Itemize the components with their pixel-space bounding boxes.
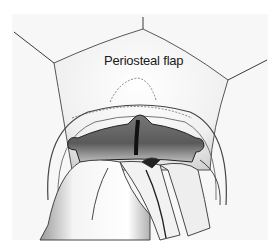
illustration-drawing [0, 0, 276, 248]
periosteal-flap-label: Periosteal flap [104, 53, 183, 68]
surgical-illustration: Periosteal flap [0, 0, 276, 248]
